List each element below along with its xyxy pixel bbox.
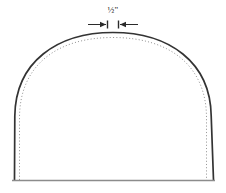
cutting-line [15, 33, 214, 181]
pattern-drawing [0, 0, 226, 193]
dimension-arrow-left-icon [100, 22, 106, 27]
seam-line [20, 38, 207, 181]
seam-allowance-label: ½" [0, 5, 226, 16]
pattern-diagram: ½" [0, 0, 226, 193]
dimension-callout [88, 21, 138, 29]
